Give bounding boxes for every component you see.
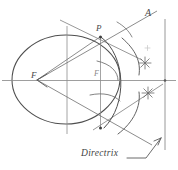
- intersection-mark-faint: [145, 46, 150, 51]
- tangent-line-lower: [93, 84, 163, 130]
- label-focus-left: F: [31, 71, 37, 80]
- leader-line-directrix: [127, 138, 161, 158]
- chord-F-to-P: [37, 37, 100, 80]
- geometry-figure: A P F F Directrix: [0, 0, 178, 170]
- arc-small-inner-2: [90, 94, 120, 101]
- focal-ray-lower: [37, 80, 152, 145]
- point-marker-directrix-axis: [164, 79, 167, 82]
- construction-drawing: [0, 0, 178, 170]
- intersection-mark-upper: [139, 57, 151, 69]
- ellipse-curve: [12, 35, 120, 124]
- label-point-P: P: [96, 24, 102, 33]
- point-marker-bottom: [99, 127, 102, 130]
- label-apex-A: A: [145, 8, 151, 18]
- arc-long-right: [101, 37, 121, 128]
- intersection-mark-lower: [142, 87, 154, 99]
- arc-upper-sweep: [122, 38, 139, 75]
- point-marker-P: [99, 36, 102, 39]
- label-directrix: Directrix: [81, 149, 118, 159]
- label-focus-inner: F: [94, 70, 99, 78]
